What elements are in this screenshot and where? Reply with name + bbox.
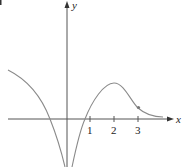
x-axis-label: x	[175, 113, 181, 125]
function-graph: x y 1 2 3	[0, 0, 182, 167]
x-axis-arrow-icon	[167, 117, 174, 122]
cropped-label-fragment	[0, 0, 2, 5]
highlighted-point	[137, 106, 140, 109]
tick-label-1: 1	[87, 124, 93, 136]
tick-label-3: 3	[135, 124, 141, 136]
tick-label-2: 2	[111, 124, 117, 136]
y-axis-arrow-icon	[65, 1, 70, 8]
curve-right-branch	[72, 83, 163, 167]
y-axis-label: y	[71, 0, 77, 11]
